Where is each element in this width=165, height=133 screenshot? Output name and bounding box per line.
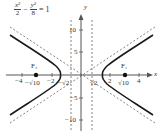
y-axis-arrow-icon <box>79 14 84 20</box>
x-label-neg-sqrt10: −√10 <box>25 80 40 87</box>
fraction-y: y² 8 <box>30 2 37 17</box>
x-tick-2: 2 <box>108 78 112 85</box>
y-tick-5: 5 <box>74 49 78 56</box>
y-tick-10: 10 <box>69 27 76 34</box>
x-tick-neg4: −4 <box>15 78 22 85</box>
focus-f1-label: F₁ <box>121 63 127 70</box>
x-axis-arrow-icon <box>147 73 153 78</box>
x-label-neg-sqrt2: −√2 <box>58 80 69 87</box>
focus-f2-point <box>34 73 38 77</box>
equation-label: x² 2 − y² 8 = 1 <box>14 2 49 17</box>
focus-f1-point <box>123 73 127 77</box>
x-label-sqrt2: √2 <box>90 80 97 87</box>
y-tick-neg5: −5 <box>70 95 77 102</box>
y-axis-label: y <box>84 4 87 11</box>
y-tick-neg10: −10 <box>65 117 76 124</box>
x-tick-neg2: −2 <box>47 78 54 85</box>
focus-f2-label: F₂ <box>31 63 37 70</box>
x-tick-4: 4 <box>137 78 141 85</box>
x-label-sqrt10: √10 <box>118 80 129 87</box>
fraction-x: x² 2 <box>14 2 21 17</box>
x-axis-label: x <box>154 71 157 78</box>
hyperbola-diagram <box>0 0 165 133</box>
